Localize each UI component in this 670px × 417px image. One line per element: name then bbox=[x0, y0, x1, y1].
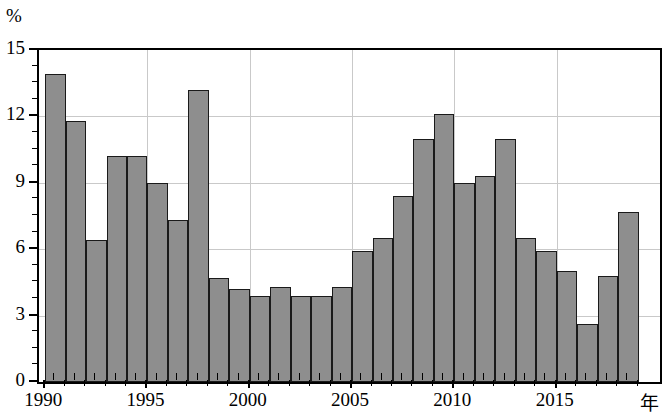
gridline-horizontal bbox=[39, 116, 660, 117]
y-axis-tick-major bbox=[29, 48, 37, 50]
bar bbox=[66, 121, 86, 382]
x-axis-tick bbox=[166, 380, 167, 386]
bar bbox=[250, 296, 270, 382]
y-axis-tick-label: 6 bbox=[0, 237, 25, 256]
x-axis-tick bbox=[207, 380, 208, 386]
x-axis-tick bbox=[432, 380, 433, 386]
y-axis-tick-minor bbox=[32, 297, 37, 298]
x-axis-tick-minor bbox=[442, 373, 443, 380]
y-axis-tick-label: 9 bbox=[0, 171, 25, 190]
bar bbox=[45, 74, 65, 382]
bar bbox=[373, 238, 393, 382]
x-axis-tick-label: 2000 bbox=[218, 390, 278, 409]
x-axis-tick-minor bbox=[74, 373, 75, 380]
x-axis-tick-minor bbox=[135, 373, 136, 380]
x-axis-tick bbox=[514, 380, 515, 386]
bar bbox=[577, 324, 597, 382]
y-axis-tick-minor bbox=[32, 264, 37, 265]
bar bbox=[311, 296, 331, 382]
x-axis-tick bbox=[289, 380, 290, 386]
y-axis-tick-label: 0 bbox=[0, 370, 25, 389]
x-axis-tick-minor bbox=[544, 373, 545, 380]
x-axis-tick-minor bbox=[217, 373, 218, 380]
y-axis-tick-minor bbox=[32, 231, 37, 232]
y-axis-unit-label: % bbox=[6, 6, 22, 25]
x-axis-tick bbox=[391, 380, 392, 386]
x-axis-tick-minor bbox=[319, 373, 320, 380]
x-axis-tick bbox=[596, 380, 597, 386]
y-axis-tick-minor bbox=[32, 347, 37, 348]
x-axis-tick bbox=[268, 380, 269, 386]
y-axis-tick-major bbox=[29, 181, 37, 183]
y-axis-tick-label: 3 bbox=[0, 304, 25, 323]
x-axis-tick bbox=[227, 380, 228, 386]
x-axis-tick-label: 1990 bbox=[13, 390, 73, 409]
bar bbox=[270, 287, 290, 382]
bar bbox=[598, 276, 618, 382]
x-axis-tick-minor bbox=[381, 373, 382, 380]
x-axis-tick-minor bbox=[299, 373, 300, 380]
bar bbox=[454, 183, 474, 382]
y-axis-tick-minor bbox=[32, 148, 37, 149]
x-axis-tick bbox=[616, 380, 617, 386]
x-axis-tick bbox=[575, 380, 576, 386]
x-axis-tick-minor bbox=[197, 373, 198, 380]
y-axis-tick-label: 15 bbox=[0, 38, 25, 57]
x-axis-tick bbox=[145, 380, 147, 388]
bar bbox=[107, 156, 127, 382]
x-axis-tick-minor bbox=[606, 373, 607, 380]
bar bbox=[209, 278, 229, 382]
bar bbox=[413, 139, 433, 382]
x-axis-tick-minor bbox=[422, 373, 423, 380]
bar bbox=[188, 90, 208, 382]
bar-chart: % 03691215 199019952000200520102015 年 bbox=[0, 0, 670, 417]
y-axis-tick-minor bbox=[32, 81, 37, 82]
bar bbox=[618, 212, 638, 382]
bar bbox=[291, 296, 311, 382]
y-axis-tick-major bbox=[29, 380, 37, 382]
y-axis-tick-label: 12 bbox=[0, 104, 25, 123]
x-axis-tick-minor bbox=[626, 373, 627, 380]
x-axis-tick-minor bbox=[176, 373, 177, 380]
x-axis-unit-label: 年 bbox=[640, 394, 659, 413]
bar bbox=[168, 220, 188, 382]
y-axis-tick-minor bbox=[32, 363, 37, 364]
x-axis-tick bbox=[309, 380, 310, 386]
y-axis-tick-minor bbox=[32, 65, 37, 66]
bar bbox=[536, 251, 556, 382]
x-axis-tick bbox=[84, 380, 85, 386]
y-axis-tick-major bbox=[29, 114, 37, 116]
x-axis-tick bbox=[43, 380, 45, 388]
x-axis-tick bbox=[125, 380, 126, 386]
y-axis-tick-minor bbox=[32, 98, 37, 99]
x-axis-tick-minor bbox=[524, 373, 525, 380]
x-axis-tick bbox=[105, 380, 106, 386]
x-axis-tick-minor bbox=[156, 373, 157, 380]
y-axis-tick-minor bbox=[32, 131, 37, 132]
bar bbox=[86, 240, 106, 382]
bar bbox=[434, 114, 454, 382]
x-axis-tick bbox=[637, 380, 638, 386]
bar bbox=[557, 271, 577, 382]
bar bbox=[495, 139, 515, 382]
x-axis-tick-minor bbox=[504, 373, 505, 380]
x-axis-tick-label: 2015 bbox=[525, 390, 585, 409]
x-axis-tick-minor bbox=[585, 373, 586, 380]
bar bbox=[516, 238, 536, 382]
x-axis-tick-minor bbox=[483, 373, 484, 380]
bar bbox=[475, 176, 495, 382]
x-axis-tick bbox=[248, 380, 250, 388]
y-axis-tick-minor bbox=[32, 164, 37, 165]
y-axis-tick-major bbox=[29, 314, 37, 316]
x-axis-tick bbox=[350, 380, 352, 388]
bar bbox=[332, 287, 352, 382]
x-axis-tick bbox=[473, 380, 474, 386]
x-axis-tick bbox=[371, 380, 372, 386]
plot-area bbox=[37, 48, 662, 384]
x-axis-tick bbox=[493, 380, 494, 386]
x-axis-tick bbox=[555, 380, 557, 388]
bar bbox=[229, 289, 249, 382]
bar bbox=[147, 183, 167, 382]
bar bbox=[393, 196, 413, 382]
x-axis-tick-minor bbox=[565, 373, 566, 380]
